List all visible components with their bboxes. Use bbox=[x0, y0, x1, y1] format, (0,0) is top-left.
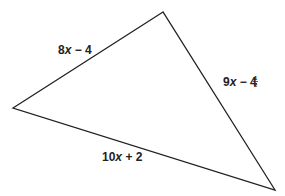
side-label-left: 8x − 4 bbox=[58, 43, 92, 57]
side-label-bottom: 10x + 2 bbox=[102, 150, 143, 164]
fraction-numerator: 1 bbox=[254, 75, 258, 81]
triangle bbox=[13, 12, 275, 190]
side-label-right: 9x − 4 bbox=[223, 75, 257, 89]
fraction-denominator: 2 bbox=[254, 82, 258, 88]
triangle-diagram: 8x − 4 9x − 4 1 2 10x + 2 bbox=[0, 0, 285, 196]
